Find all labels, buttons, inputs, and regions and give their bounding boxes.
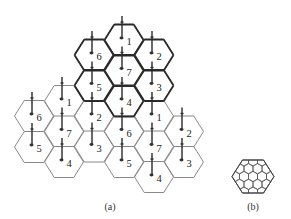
mini-hex-cell xyxy=(289,195,291,205)
mini-hex-cell xyxy=(289,148,291,158)
mini-hex-cell xyxy=(221,156,230,166)
mini-hex-cell xyxy=(271,164,280,174)
mini-hex-cell xyxy=(217,179,226,189)
mini-hex-cell xyxy=(226,164,235,174)
cell-label: 2 xyxy=(157,51,162,62)
mini-hex-cell xyxy=(212,171,221,181)
mini-hex-cell xyxy=(267,156,276,166)
mini-hex-cell xyxy=(267,187,276,197)
mini-hex-cell xyxy=(285,156,291,166)
mini-hex-cell xyxy=(212,187,221,197)
mini-hex-cell xyxy=(221,171,230,181)
mini-hex-cell xyxy=(217,164,226,174)
cell-label: 1 xyxy=(127,36,132,47)
mini-hex-cell xyxy=(253,148,262,158)
mini-hex-cell xyxy=(276,187,285,197)
mini-hex-cell xyxy=(226,148,235,158)
mini-hex-cell xyxy=(217,195,226,205)
cell-label: 1 xyxy=(67,97,72,108)
mini-hex-cell xyxy=(280,164,289,174)
panel-a-cell-grid: 651746523174652317423 (a) xyxy=(15,16,204,213)
cell-label: 4 xyxy=(127,97,133,108)
caption-b: (b) xyxy=(247,201,259,213)
cell-label: 7 xyxy=(67,128,72,139)
cell-label: 7 xyxy=(127,67,132,78)
cell-label: 1 xyxy=(157,112,162,123)
mini-hex-cell xyxy=(262,148,271,158)
mini-hex-cell xyxy=(271,148,280,158)
mini-hex-cell xyxy=(230,156,239,166)
mini-hex-cell xyxy=(280,148,289,158)
cell-label: 5 xyxy=(97,82,102,93)
cellular-reuse-diagram: 651746523174652317423 (a) (b) xyxy=(0,0,291,219)
cell-label: 7 xyxy=(157,143,162,154)
caption-a: (a) xyxy=(104,201,115,213)
mini-hex-cell xyxy=(285,187,291,197)
mini-hex-cell xyxy=(289,179,291,189)
mini-hex-cell xyxy=(226,195,235,205)
cell-label: 3 xyxy=(97,143,102,154)
mini-hex-cell xyxy=(276,171,285,181)
cell-label: 2 xyxy=(97,112,102,123)
mini-hex-cell xyxy=(271,195,280,205)
cell-label: 6 xyxy=(127,128,132,139)
mini-hex-cell xyxy=(235,195,244,205)
cell-label: 6 xyxy=(97,51,102,62)
cell-label: 3 xyxy=(157,82,162,93)
mini-hex-cell xyxy=(262,195,271,205)
mini-hex-cell xyxy=(271,179,280,189)
mini-hex-cell xyxy=(280,179,289,189)
mini-hex-cell xyxy=(280,195,289,205)
cell-label: 3 xyxy=(187,158,192,169)
mini-hex-cell xyxy=(230,187,239,197)
cell-label: 4 xyxy=(157,173,163,184)
mini-hex-cell xyxy=(217,148,226,158)
cell-label: 6 xyxy=(37,112,42,123)
cell-label: 2 xyxy=(187,128,192,139)
mini-hex-cell xyxy=(226,179,235,189)
mini-hex-cell xyxy=(221,187,230,197)
mini-hex-cell xyxy=(212,156,221,166)
mini-hex-cell xyxy=(244,148,253,158)
outer-hexagon xyxy=(232,160,274,193)
cell-label: 5 xyxy=(127,158,132,169)
mini-hex-cell xyxy=(276,156,285,166)
mini-hex-cell xyxy=(235,148,244,158)
mini-hex-cell xyxy=(289,164,291,174)
cell-label: 5 xyxy=(37,143,42,154)
figure-canvas: 651746523174652317423 (a) (b) xyxy=(0,0,291,219)
cell-label: 4 xyxy=(67,158,73,169)
mini-hex-cell xyxy=(285,171,291,181)
panel-b-cluster-pattern: (b) xyxy=(212,148,291,213)
